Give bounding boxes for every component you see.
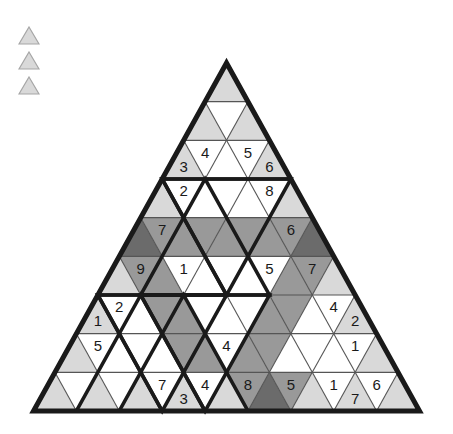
cell-0-0[interactable]: [205, 63, 248, 102]
triangular-sudoku-board[interactable]: 345628769157124254173485176: [0, 0, 453, 434]
cells-layer[interactable]: [34, 63, 420, 411]
